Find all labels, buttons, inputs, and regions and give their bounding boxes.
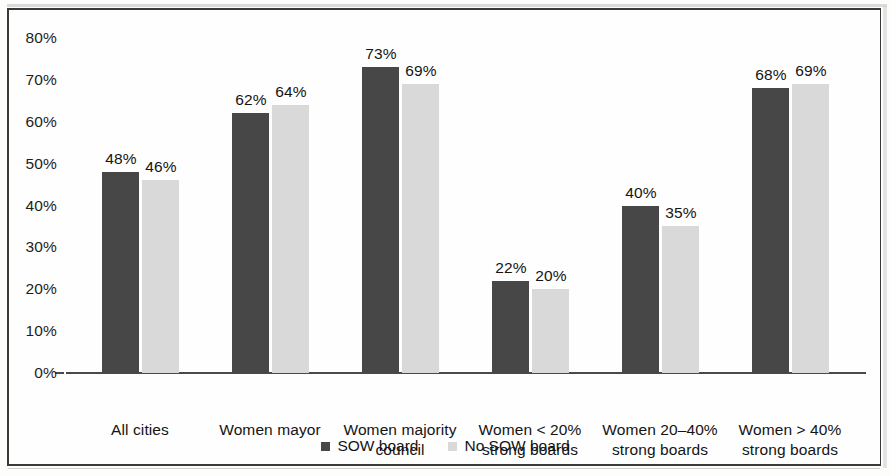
legend-item-no-sow-board[interactable]: No SOW board bbox=[448, 437, 569, 455]
bar-value-label: 46% bbox=[131, 158, 191, 176]
chart-figure: 0%10%20%30%40%50%60%70%80%48%46%All citi… bbox=[0, 0, 891, 476]
bar-sow-board[interactable] bbox=[622, 206, 659, 374]
bar-value-label: 35% bbox=[651, 204, 711, 222]
plot-area: 0%10%20%30%40%50%60%70%80%48%46%All citi… bbox=[66, 38, 866, 373]
bar-value-label: 73% bbox=[351, 45, 411, 63]
bar-group: 68%69% bbox=[752, 38, 829, 373]
y-axis-tick-label: 80% bbox=[25, 29, 66, 47]
bar-no-sow-board[interactable] bbox=[792, 84, 829, 373]
legend-divider bbox=[8, 468, 880, 469]
bar-value-label: 64% bbox=[261, 83, 321, 101]
bar-sow-board[interactable] bbox=[492, 281, 529, 373]
bar-sow-board[interactable] bbox=[232, 113, 269, 373]
y-axis-tick-label: 30% bbox=[25, 238, 66, 256]
bar-sow-board[interactable] bbox=[362, 67, 399, 373]
bar-group: 40%35% bbox=[622, 38, 699, 373]
y-axis-tick-label: 40% bbox=[25, 197, 66, 215]
y-axis-tick-label: 0% bbox=[34, 364, 66, 382]
bar-group: 73%69% bbox=[362, 38, 439, 373]
chart-legend: SOW boardNo SOW board bbox=[0, 437, 891, 455]
bar-group: 48%46% bbox=[102, 38, 179, 373]
bar-no-sow-board[interactable] bbox=[142, 180, 179, 373]
legend-swatch-icon bbox=[448, 442, 457, 451]
legend-label: No SOW board bbox=[464, 437, 569, 455]
bar-no-sow-board[interactable] bbox=[662, 226, 699, 373]
page-edge-shadow-top bbox=[7, 4, 887, 7]
bar-group: 22%20% bbox=[492, 38, 569, 373]
category-label-line1: Women mayor bbox=[219, 421, 321, 438]
legend-swatch-icon bbox=[321, 442, 330, 451]
legend-label: SOW board bbox=[337, 437, 418, 455]
bar-sow-board[interactable] bbox=[752, 88, 789, 373]
bar-value-label: 69% bbox=[781, 62, 841, 80]
y-axis-tick-label: 70% bbox=[25, 71, 66, 89]
bar-group: 62%64% bbox=[232, 38, 309, 373]
category-label-line1: Women > 40% bbox=[739, 421, 842, 438]
y-axis-tick-label: 50% bbox=[25, 155, 66, 173]
legend-item-sow-board[interactable]: SOW board bbox=[321, 437, 418, 455]
category-label-line1: Women < 20% bbox=[479, 421, 582, 438]
page-edge-shadow-right bbox=[883, 6, 887, 468]
bar-no-sow-board[interactable] bbox=[532, 289, 569, 373]
bar-value-label: 69% bbox=[391, 62, 451, 80]
bar-sow-board[interactable] bbox=[102, 172, 139, 373]
y-axis-tick-label: 10% bbox=[25, 322, 66, 340]
bar-value-label: 40% bbox=[611, 184, 671, 202]
y-axis-tick-label: 60% bbox=[25, 113, 66, 131]
y-axis-tick-label: 20% bbox=[25, 280, 66, 298]
category-label-line1: All cities bbox=[111, 421, 169, 438]
bar-no-sow-board[interactable] bbox=[402, 84, 439, 373]
bar-value-label: 20% bbox=[521, 267, 581, 285]
bar-no-sow-board[interactable] bbox=[272, 105, 309, 373]
